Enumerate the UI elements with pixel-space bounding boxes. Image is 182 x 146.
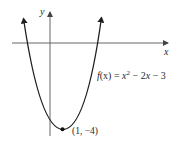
function-label-eq: =: [111, 70, 122, 81]
function-label-term3: − 3: [150, 70, 166, 81]
parabola-graph: x y (1, −4) f(x) = x2 − 2x − 3: [0, 0, 182, 146]
x-axis-label: x: [163, 46, 169, 57]
function-label: f(x) = x2 − 2x − 3: [97, 69, 166, 82]
y-axis-label: y: [39, 6, 45, 17]
vertex-point: [61, 127, 65, 131]
vertex-label: (1, −4): [72, 126, 98, 137]
parabola-curve-right: [63, 18, 102, 130]
parabola-curve-left: [24, 19, 64, 130]
function-label-arg: (x): [100, 70, 112, 82]
function-label-term2: − 2: [130, 70, 146, 81]
